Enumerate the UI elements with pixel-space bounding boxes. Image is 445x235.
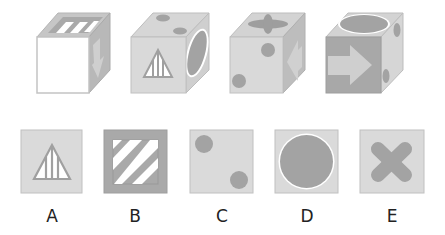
option-label-e: E bbox=[372, 206, 412, 226]
cube-3 bbox=[230, 13, 305, 93]
dot-icon bbox=[156, 15, 170, 22]
cube-1 bbox=[37, 13, 110, 93]
puzzle-canvas bbox=[0, 0, 445, 235]
cube-4 bbox=[326, 13, 403, 93]
dot-icon bbox=[230, 171, 248, 189]
dot-icon bbox=[383, 69, 390, 83]
option-b[interactable] bbox=[104, 130, 167, 193]
blank-face bbox=[37, 37, 89, 93]
large-circle-icon bbox=[340, 15, 388, 33]
cross-icon bbox=[378, 149, 405, 175]
dot-icon bbox=[173, 28, 187, 35]
option-label-a: A bbox=[32, 206, 72, 226]
option-c[interactable] bbox=[190, 130, 253, 193]
diagonal-stripes-icon bbox=[113, 140, 158, 184]
dot-icon bbox=[261, 43, 275, 57]
option-label-b: B bbox=[115, 206, 155, 226]
option-label-c: C bbox=[202, 206, 242, 226]
large-circle-icon bbox=[280, 135, 333, 188]
option-e[interactable] bbox=[360, 130, 424, 193]
option-a[interactable] bbox=[21, 130, 82, 193]
dot-icon bbox=[232, 74, 246, 88]
option-label-d: D bbox=[287, 206, 327, 226]
dot-icon bbox=[195, 135, 213, 153]
option-d[interactable] bbox=[275, 130, 338, 193]
cube-2 bbox=[131, 13, 213, 93]
dot-icon bbox=[394, 23, 401, 37]
